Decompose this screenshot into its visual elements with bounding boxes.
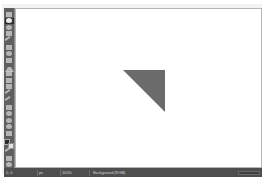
status-bar: 0, 0 px 100% Background (RGB) [4, 168, 262, 177]
status-divider [89, 170, 90, 176]
clone-icon [6, 118, 12, 123]
toolbox[interactable] [4, 8, 15, 168]
tool-color-picker[interactable] [5, 148, 14, 155]
tool-paintbrush[interactable] [5, 97, 14, 104]
application-window: 0, 0 px 100% Background (RGB) [0, 0, 266, 178]
tool-flip[interactable] [5, 64, 14, 71]
status-layer-name: Background (RGB) [93, 170, 139, 175]
status-divider [37, 170, 38, 176]
tool-move[interactable] [5, 37, 14, 44]
canvas-area[interactable] [15, 8, 262, 168]
shape-triangle[interactable] [123, 70, 165, 112]
tool-smudge[interactable] [5, 130, 14, 137]
free-select-icon [6, 18, 12, 23]
rotate-icon [6, 51, 12, 56]
rect-select-icon [6, 12, 12, 17]
status-units[interactable]: px [39, 170, 59, 175]
magnifier-icon [6, 162, 12, 167]
canvas-surface[interactable] [16, 9, 261, 167]
crop-icon [6, 45, 12, 50]
text-icon [6, 71, 12, 76]
bucket-fill-icon [6, 78, 12, 83]
smudge-icon [6, 131, 12, 136]
application-body: 0, 0 px 100% Background (RGB) [2, 4, 262, 174]
status-position: 0, 0 [6, 170, 36, 175]
status-divider [60, 170, 61, 176]
window-frame: 0, 0 px 100% Background (RGB) [0, 0, 266, 178]
status-zoom-level[interactable]: 100% [62, 170, 88, 175]
blur-icon [6, 124, 12, 129]
measure-icon [6, 156, 12, 161]
airbrush-icon [6, 111, 12, 116]
status-progress-bar [238, 171, 260, 175]
eraser-icon [6, 105, 12, 110]
fuzzy-select-icon [6, 25, 12, 30]
